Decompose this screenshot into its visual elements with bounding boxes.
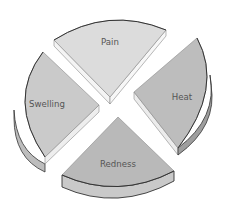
label-heat: Heat <box>172 92 193 102</box>
label-pain: Pain <box>101 37 119 47</box>
inflammation-signs-diagram: Pain Heat Swelling Redness <box>0 0 235 218</box>
label-redness: Redness <box>100 159 137 169</box>
pie-diagram-svg: Pain Heat Swelling Redness <box>0 0 235 218</box>
label-swelling: Swelling <box>29 99 65 109</box>
